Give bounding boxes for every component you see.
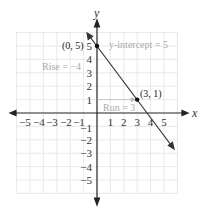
y-intercept-annotation: y-intercept = 5 (109, 39, 168, 50)
svg-text:4: 4 (148, 116, 154, 128)
x-axis-right-arrow-icon (182, 111, 188, 116)
svg-text:4: 4 (87, 53, 93, 65)
y-axis-up-arrow-icon (95, 20, 100, 27)
rise-annotation: Rise = −4 (42, 61, 81, 72)
svg-text:1: 1 (108, 116, 114, 128)
svg-text:5: 5 (161, 116, 167, 128)
svg-text:−2: −2 (80, 134, 92, 146)
run-annotation: Run = 3 (103, 102, 135, 113)
y-axis-label: y (93, 6, 100, 20)
x-axis-label: x (191, 106, 198, 120)
x-axis-left-arrow-icon (10, 111, 16, 116)
point-3-1 (135, 97, 139, 101)
svg-text:3: 3 (87, 67, 93, 79)
svg-text:−1: −1 (80, 122, 92, 134)
svg-text:−2: −2 (60, 116, 72, 128)
y-axis-down-arrow-icon (95, 198, 100, 205)
svg-text:−3: −3 (80, 147, 92, 159)
point-0-5 (95, 44, 99, 48)
coordinate-plane: y x −5 −4 −3 −2 −1 1 2 3 4 5 5 4 3 2 1 −… (0, 0, 206, 212)
point-label-3-1: (3, 1) (140, 88, 162, 100)
point-label-0-5: (0, 5) (62, 40, 84, 52)
svg-text:−4: −4 (80, 161, 92, 173)
svg-text:−5: −5 (19, 116, 31, 128)
svg-text:3: 3 (134, 116, 140, 128)
svg-text:−3: −3 (46, 116, 58, 128)
svg-text:5: 5 (87, 40, 93, 52)
svg-text:1: 1 (87, 94, 93, 106)
svg-text:−5: −5 (80, 174, 92, 186)
svg-text:2: 2 (121, 116, 127, 128)
svg-text:2: 2 (87, 80, 93, 92)
run-arrow (97, 98, 136, 102)
svg-text:−4: −4 (33, 116, 45, 128)
